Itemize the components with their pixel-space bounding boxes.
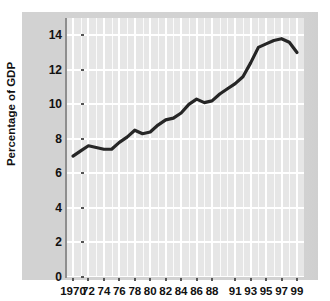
chart-figure: Percentage of GDP 02468101214 1970727476…	[0, 0, 330, 301]
x-axis-tick-mark	[196, 278, 198, 281]
x-axis-tick-label: 99	[291, 285, 304, 297]
y-axis-spine	[65, 18, 67, 278]
x-axis-tick-label: 84	[175, 285, 188, 297]
x-axis-tick-mark	[103, 278, 105, 281]
y-axis-tick-mark	[81, 34, 84, 36]
x-axis-tick-label: 78	[128, 285, 141, 297]
y-axis-tick-mark	[81, 138, 84, 140]
x-axis-tick-label: 82	[159, 285, 172, 297]
x-axis-tick-label: 86	[190, 285, 203, 297]
x-axis-tick-label: 74	[97, 285, 110, 297]
x-axis-tick-label: 93	[244, 285, 257, 297]
x-axis-tick-label: 72	[82, 285, 95, 297]
y-axis-tick-label: 4	[22, 202, 62, 214]
y-axis-tick-label: 12	[22, 64, 62, 76]
x-axis-tick-labels: 19707274767880828486889193959799	[66, 281, 304, 299]
x-axis-tick-mark	[134, 278, 136, 281]
y-axis-title: Percentage of GDP	[5, 49, 17, 179]
y-axis-tick-mark	[81, 69, 84, 71]
y-axis-tick-label: 2	[22, 236, 62, 248]
x-axis-tick-mark	[281, 278, 283, 281]
x-axis-tick-mark	[250, 278, 252, 281]
x-axis-tick-label: 80	[144, 285, 157, 297]
y-axis-tick-mark	[81, 241, 84, 243]
y-axis-tick-label: 14	[22, 29, 62, 41]
x-axis-tick-mark	[265, 278, 267, 281]
x-axis-tick-mark	[234, 278, 236, 281]
plot-area	[66, 18, 304, 277]
y-axis-tick-mark	[81, 103, 84, 105]
x-axis-tick-mark	[211, 278, 213, 281]
y-axis-tick-labels: 02468101214	[18, 18, 62, 277]
data-series-line	[66, 18, 304, 277]
y-axis-tick-label: 0	[22, 271, 62, 283]
x-axis-tick-mark	[72, 278, 74, 281]
x-axis-tick-mark	[118, 278, 120, 281]
x-axis-tick-mark	[149, 278, 151, 281]
x-axis-tick-mark	[296, 278, 298, 281]
x-axis-tick-mark	[165, 278, 167, 281]
x-axis-tick-mark	[180, 278, 182, 281]
y-axis-tick-mark	[81, 207, 84, 209]
x-axis-tick-label: 95	[260, 285, 273, 297]
y-axis-tick-label: 10	[22, 98, 62, 110]
y-axis-tick-label: 6	[22, 167, 62, 179]
x-axis-tick-label: 76	[113, 285, 126, 297]
y-axis-tick-mark	[81, 276, 84, 278]
x-axis-tick-label: 97	[275, 285, 288, 297]
x-axis-tick-label: 88	[206, 285, 219, 297]
y-axis-tick-label: 8	[22, 133, 62, 145]
x-axis-tick-label: 91	[229, 285, 242, 297]
y-axis-tick-mark	[81, 172, 84, 174]
x-axis-tick-mark	[87, 278, 89, 281]
